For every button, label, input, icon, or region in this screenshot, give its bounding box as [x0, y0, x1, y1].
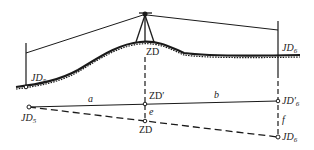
label-distance-b: b — [214, 89, 219, 100]
foresight-line — [147, 15, 278, 30]
plan-view: JD5 a ZD′ b JD′6 e ZD f JD6 — [21, 89, 300, 144]
point-jd6-prime — [276, 99, 280, 103]
point-jd6 — [276, 135, 280, 139]
left-station-marker — [24, 85, 28, 89]
diagram-canvas: JD5 ZD JD6 JD5 a ZD′ b JD′6 e ZD f JD6 — [0, 0, 314, 150]
actual-line-jd5-jd6 — [29, 107, 278, 137]
label-distance-a: a — [88, 93, 93, 104]
profile-view: JD5 ZD JD6 — [16, 12, 300, 90]
backsight-line — [26, 15, 143, 53]
label-zd-plan: ZD — [139, 124, 152, 135]
label-zd-prime: ZD′ — [149, 90, 165, 101]
label-jd6-plan: JD6 — [282, 131, 298, 144]
label-distance-f: f — [282, 114, 286, 125]
point-zd-prime — [143, 102, 147, 106]
straight-line-jd5-jd6prime — [29, 101, 278, 107]
label-jd6-prime: JD′6 — [282, 95, 300, 108]
point-zd — [143, 119, 147, 123]
label-zd-profile: ZD — [146, 46, 159, 57]
label-jd6-profile: JD6 — [282, 42, 298, 55]
point-jd5 — [27, 105, 31, 109]
label-jd5-plan: JD5 — [21, 112, 37, 125]
label-distance-e: e — [149, 106, 154, 117]
